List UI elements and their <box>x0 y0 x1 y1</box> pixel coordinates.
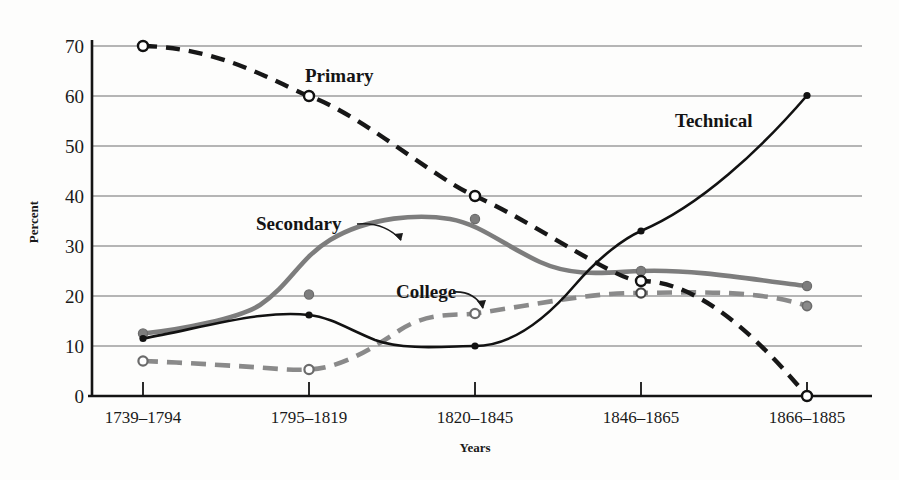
technical-point-4 <box>803 92 810 99</box>
technical-point-1 <box>305 311 312 318</box>
y-axis-title: Percent <box>26 200 41 243</box>
series-label-primary: Primary <box>305 65 374 86</box>
x-tick-label-3: 1846–1865 <box>603 408 680 427</box>
y-tick-label-10: 10 <box>65 336 84 357</box>
secondary-point-3 <box>636 266 645 275</box>
secondary-point-2 <box>470 214 479 223</box>
primary-point-4 <box>802 391 812 401</box>
series-label-college: College <box>396 281 456 302</box>
series-college <box>138 288 811 374</box>
college-point-3 <box>636 288 645 297</box>
technical-point-2 <box>471 342 478 349</box>
secondary-point-4 <box>802 281 811 290</box>
x-tick-label-0: 1739–1794 <box>105 408 182 427</box>
primary-point-3 <box>636 276 646 286</box>
line-chart-svg: 70 60 50 40 30 20 10 0 1739–1794 1795–18… <box>0 0 899 480</box>
primary-point-2 <box>470 191 480 201</box>
y-tick-label-30: 30 <box>65 236 84 257</box>
y-tick-label-60: 60 <box>65 86 84 107</box>
series-label-technical: Technical <box>675 110 752 131</box>
x-tick-label-4: 1866–1885 <box>769 408 846 427</box>
technical-point-0 <box>139 335 146 342</box>
chart-figure: 70 60 50 40 30 20 10 0 1739–1794 1795–18… <box>0 0 899 480</box>
x-tick-label-1: 1795–1819 <box>271 408 348 427</box>
college-point-4 <box>802 301 811 310</box>
x-axis-tick-labels: 1739–1794 1795–1819 1820–1845 1846–1865 … <box>105 408 846 427</box>
college-point-1 <box>304 365 313 374</box>
y-tick-label-50: 50 <box>65 136 84 157</box>
series-label-secondary: Secondary <box>256 213 342 234</box>
y-tick-label-0: 0 <box>75 386 85 407</box>
primary-point-1 <box>304 91 314 101</box>
x-axis-title: Years <box>459 440 490 455</box>
x-tick-label-2: 1820–1845 <box>437 408 514 427</box>
y-tick-label-20: 20 <box>65 286 84 307</box>
primary-point-0 <box>138 41 148 51</box>
y-tick-label-70: 70 <box>65 36 84 57</box>
college-leader-arrow <box>453 292 486 309</box>
secondary-point-1 <box>304 290 313 299</box>
college-point-2 <box>470 309 479 318</box>
x-axis-ticks <box>143 382 807 396</box>
y-tick-label-40: 40 <box>65 186 84 207</box>
college-point-0 <box>138 356 147 365</box>
technical-point-3 <box>637 227 644 234</box>
y-axis-tick-labels: 70 60 50 40 30 20 10 0 <box>65 36 84 407</box>
